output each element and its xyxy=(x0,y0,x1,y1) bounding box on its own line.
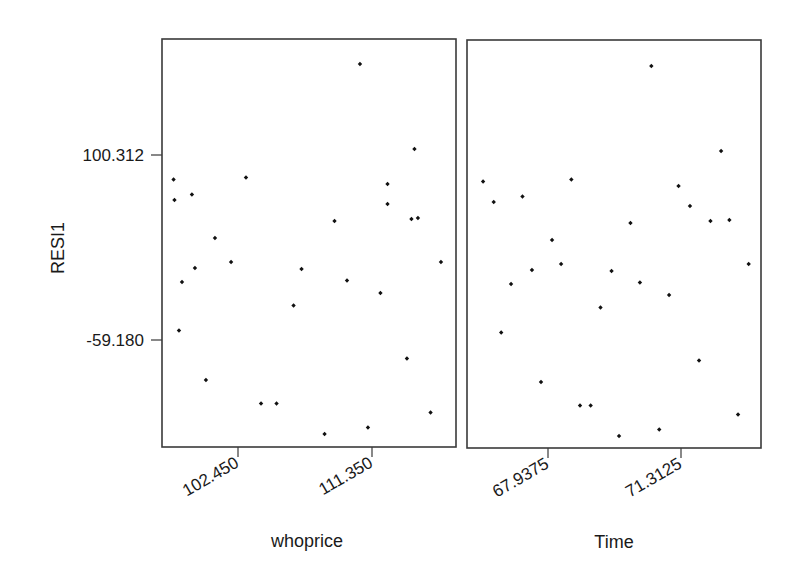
x-axis-label: whoprice xyxy=(270,531,343,551)
data-point xyxy=(539,380,543,384)
data-point xyxy=(172,198,176,202)
data-point xyxy=(385,182,389,186)
data-point xyxy=(229,260,233,264)
data-point xyxy=(550,238,554,242)
y-axis: 100.312 -59.180 xyxy=(83,146,162,350)
x-axis-label: Time xyxy=(594,532,633,552)
data-point xyxy=(657,427,661,431)
data-point xyxy=(578,403,582,407)
data-point xyxy=(727,218,731,222)
data-point xyxy=(366,425,370,429)
data-point xyxy=(530,268,534,272)
data-point xyxy=(274,401,278,405)
data-point xyxy=(499,330,503,334)
y-tick-label-1: -59.180 xyxy=(86,331,144,350)
x-tick-label-0: 67.9375 xyxy=(489,454,552,501)
data-point xyxy=(688,204,692,208)
residual-scatter-chart: RESI1 100.312 -59.180 102.450 111.350 wh… xyxy=(0,0,806,581)
data-point xyxy=(412,147,416,151)
data-point xyxy=(358,62,362,66)
data-point xyxy=(492,200,496,204)
data-point xyxy=(569,177,573,181)
data-point xyxy=(588,403,592,407)
y-tick-label-0: 100.312 xyxy=(83,146,144,165)
data-point xyxy=(736,412,740,416)
data-point xyxy=(213,236,217,240)
data-point xyxy=(559,262,563,266)
panel-whoprice: 102.450 111.350 whoprice xyxy=(162,39,456,551)
x-tick-label-0: 102.450 xyxy=(179,453,242,500)
data-point xyxy=(204,378,208,382)
data-point xyxy=(439,260,443,264)
scatter-points xyxy=(481,64,751,438)
data-point xyxy=(180,280,184,284)
data-point xyxy=(190,192,194,196)
x-tick-label-1: 111.350 xyxy=(315,453,376,499)
data-point xyxy=(481,179,485,183)
data-point xyxy=(345,278,349,282)
data-point xyxy=(520,194,524,198)
data-point xyxy=(676,184,680,188)
data-point xyxy=(628,221,632,225)
data-point xyxy=(609,269,613,273)
data-point xyxy=(708,219,712,223)
data-point xyxy=(385,202,389,206)
data-point xyxy=(697,358,701,362)
data-point xyxy=(428,410,432,414)
data-point xyxy=(667,293,671,297)
data-point xyxy=(746,262,750,266)
x-tick-label-1: 71.3125 xyxy=(622,454,685,501)
data-point xyxy=(291,303,295,307)
data-point xyxy=(598,305,602,309)
data-point xyxy=(244,175,248,179)
data-point xyxy=(719,149,723,153)
data-point xyxy=(259,401,263,405)
scatter-points xyxy=(171,62,443,436)
data-point xyxy=(299,267,303,271)
data-point xyxy=(409,217,413,221)
data-point xyxy=(638,280,642,284)
data-point xyxy=(617,434,621,438)
panel-frame xyxy=(467,40,761,448)
panel-time: 67.9375 71.3125 Time xyxy=(467,40,761,552)
data-point xyxy=(405,356,409,360)
data-point xyxy=(332,219,336,223)
data-point xyxy=(416,216,420,220)
data-point xyxy=(171,177,175,181)
data-point xyxy=(177,328,181,332)
y-axis-label: RESI1 xyxy=(48,222,68,274)
data-point xyxy=(509,282,513,286)
data-point xyxy=(649,64,653,68)
panel-frame xyxy=(162,39,456,447)
data-point xyxy=(322,432,326,436)
data-point xyxy=(193,266,197,270)
data-point xyxy=(378,291,382,295)
